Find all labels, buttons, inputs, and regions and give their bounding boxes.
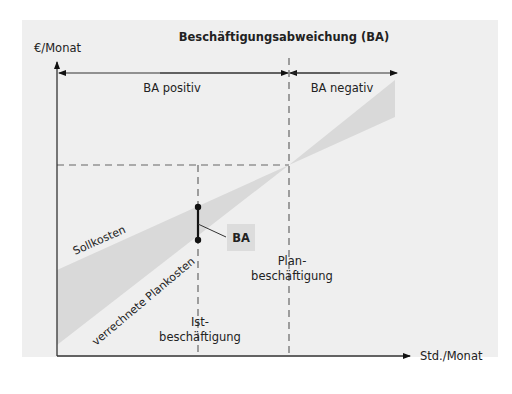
ist-beschaeftigung-label-1: Ist- — [191, 315, 209, 329]
plan-beschaeftigung-label-1: Plan- — [278, 254, 307, 268]
ba-callout-label: BA — [232, 231, 250, 245]
chart-title: Beschäftigungsabweichung (BA) — [179, 30, 389, 44]
ba-positiv-label: BA positiv — [143, 81, 201, 95]
diagram-canvas: Beschäftigungsabweichung (BA) €/Monat St… — [0, 0, 512, 394]
wedge-left — [57, 165, 289, 345]
sollkosten-point — [195, 204, 201, 210]
plan-beschaeftigung-label-2: beschäftigung — [251, 269, 333, 283]
plankosten-point — [195, 237, 201, 243]
ist-beschaeftigung-label-2: beschäftigung — [159, 330, 241, 344]
ba-negativ-label: BA negativ — [311, 81, 374, 95]
x-axis-label: Std./Monat — [420, 349, 483, 363]
y-axis-label: €/Monat — [34, 41, 81, 55]
